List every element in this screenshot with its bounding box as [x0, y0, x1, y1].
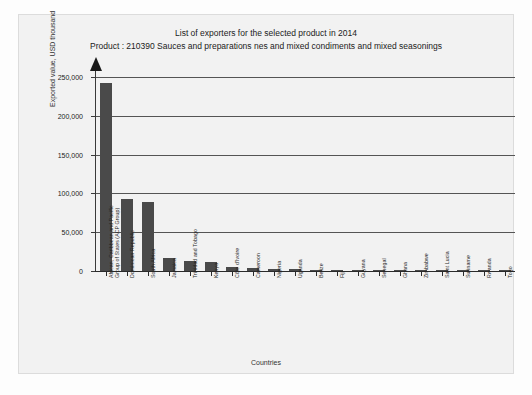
x-category-label: Belize — [318, 194, 324, 278]
plot-area: 050,000100,000150,000200,000250,000 — [95, 77, 515, 271]
x-tick-mark — [505, 272, 506, 276]
x-category-label: Jamaica — [171, 194, 177, 278]
x-tick-mark — [253, 272, 254, 276]
y-axis-title: Exported value, USD thousand — [49, 11, 56, 107]
x-category-label: Fiji — [339, 194, 345, 278]
x-tick-mark — [106, 272, 107, 276]
chart-frame: List of exporters for the selected produ… — [18, 14, 514, 374]
x-category-label: Zimbabwe — [423, 194, 429, 278]
x-category-label: African, Caribbean and Pacific Group of … — [108, 192, 120, 278]
x-category-label: Trinidad and Tobago — [192, 194, 198, 278]
x-category-label: Ghana — [402, 194, 408, 278]
x-tick-mark — [337, 272, 338, 276]
x-tick-mark — [358, 272, 359, 276]
x-tick-mark — [274, 272, 275, 276]
x-category-label: Saint Lucia — [444, 194, 450, 278]
x-tick-mark — [379, 272, 380, 276]
x-category-label: Kenya — [213, 194, 219, 278]
chart-subtitle: Product : 210390 Sauces and preparations… — [19, 40, 513, 53]
x-tick-mark — [190, 272, 191, 276]
y-tick-label: 0 — [23, 268, 83, 275]
x-tick-mark — [316, 272, 317, 276]
x-category-label: Dominican Republic — [129, 194, 135, 278]
x-axis-line — [95, 271, 515, 272]
x-category-label: Nigeria — [276, 194, 282, 278]
x-axis-title: Countries — [19, 359, 513, 366]
x-category-label: Uganda — [297, 194, 303, 278]
plot-inner: 050,000100,000150,000200,000250,000 — [95, 77, 515, 271]
x-category-label: Côte d'Ivoire — [234, 194, 240, 278]
bar-series — [95, 77, 515, 271]
y-axis-arrow-icon — [90, 57, 102, 71]
y-tick-label: 50,000 — [23, 229, 83, 236]
y-tick-label: 150,000 — [23, 151, 83, 158]
chart-title-block: List of exporters for the selected produ… — [19, 27, 513, 53]
x-tick-mark — [127, 272, 128, 276]
x-tick-mark — [484, 272, 485, 276]
y-tick-label: 200,000 — [23, 112, 83, 119]
x-tick-mark — [421, 272, 422, 276]
x-tick-mark — [400, 272, 401, 276]
x-category-label: Cameroon — [255, 194, 261, 278]
x-category-label: Suriname — [465, 194, 471, 278]
x-tick-mark — [295, 272, 296, 276]
x-tick-mark — [232, 272, 233, 276]
x-tick-mark — [211, 272, 212, 276]
y-tick-label: 250,000 — [23, 74, 83, 81]
x-category-label: Togo — [507, 194, 513, 278]
x-category-label: Senegal — [381, 194, 387, 278]
x-category-label: Rwanda — [486, 194, 492, 278]
y-tick-label: 100,000 — [23, 190, 83, 197]
x-tick-mark — [442, 272, 443, 276]
x-tick-mark — [169, 272, 170, 276]
x-category-label: South Africa — [150, 194, 156, 278]
x-category-label: Guyana — [360, 194, 366, 278]
x-tick-mark — [148, 272, 149, 276]
x-tick-mark — [463, 272, 464, 276]
chart-title: List of exporters for the selected produ… — [19, 27, 513, 40]
